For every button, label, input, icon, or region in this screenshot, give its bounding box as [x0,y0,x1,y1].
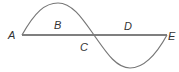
label-a: A [7,29,15,41]
label-c: C [80,41,88,53]
label-d: D [124,20,132,32]
label-b: B [54,19,61,31]
sine-wave-diagram: A B C D E [0,0,179,72]
label-e: E [168,30,176,42]
